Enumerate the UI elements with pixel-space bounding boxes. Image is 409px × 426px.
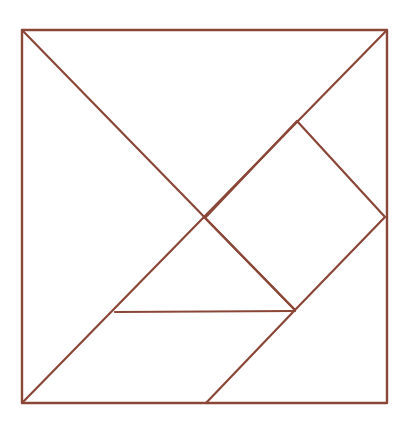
tangram-diagram: Tangram dissection of a square <box>0 0 409 426</box>
horizontal-chord-line <box>115 311 295 312</box>
